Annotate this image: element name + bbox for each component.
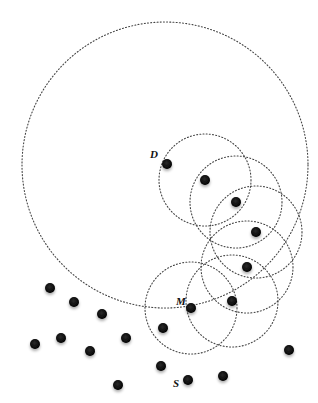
node [56, 333, 66, 343]
node [85, 346, 95, 356]
node-d [162, 159, 172, 169]
label-s: S [173, 377, 179, 389]
node [251, 227, 261, 237]
node [121, 333, 131, 343]
node [113, 380, 123, 390]
transmission-range-circles [22, 22, 308, 354]
node [156, 361, 166, 371]
node-m [186, 303, 196, 313]
node [30, 339, 40, 349]
node [69, 297, 79, 307]
node [242, 262, 252, 272]
node [200, 175, 210, 185]
node [45, 283, 55, 293]
node [231, 197, 241, 207]
node [284, 345, 294, 355]
label-m: M [175, 295, 187, 307]
node-s [183, 375, 193, 385]
sensor-nodes [30, 159, 294, 390]
node [218, 371, 228, 381]
node [227, 296, 237, 306]
node [158, 323, 168, 333]
node [97, 309, 107, 319]
network-diagram: DMS [0, 0, 318, 403]
label-d: D [149, 148, 158, 160]
